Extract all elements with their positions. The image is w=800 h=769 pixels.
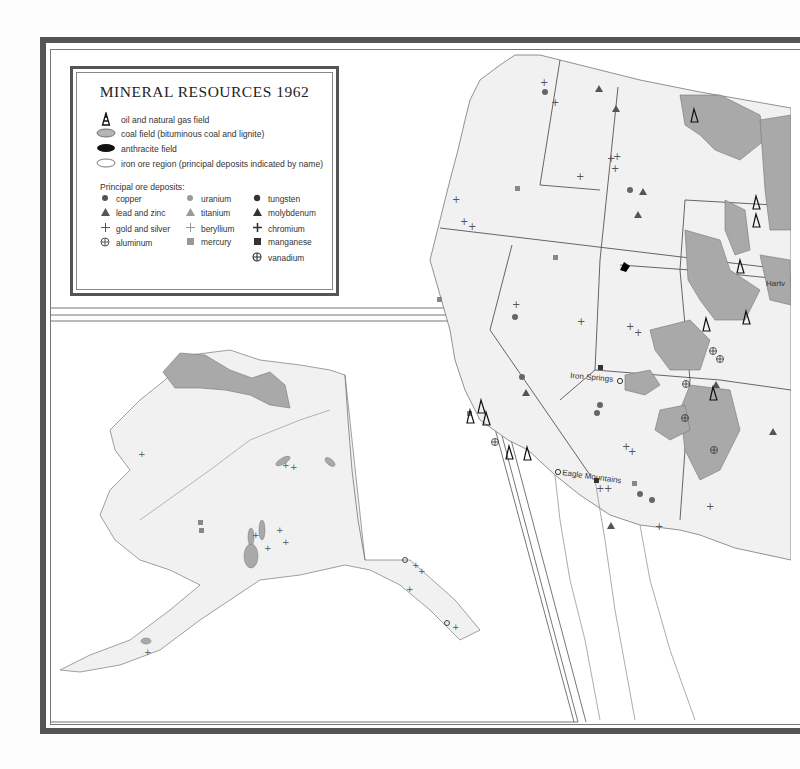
svg-text:+: + bbox=[138, 449, 146, 459]
svg-text:+: + bbox=[418, 566, 426, 576]
svg-text:+: + bbox=[452, 622, 460, 632]
legend-beryllium: beryllium bbox=[185, 223, 235, 234]
legend-titanium: titanium bbox=[185, 208, 230, 218]
legend-tungsten: tungsten bbox=[252, 194, 300, 204]
iron-ore-region-swatch bbox=[95, 158, 117, 170]
legend-label: tungsten bbox=[268, 194, 300, 204]
legend-label: uranium bbox=[201, 194, 231, 204]
black-square-icon bbox=[252, 237, 262, 247]
legend-label: mercury bbox=[201, 237, 231, 247]
dark-triangle-icon bbox=[100, 208, 110, 218]
legend-label: vanadium bbox=[268, 253, 304, 263]
svg-text:+: + bbox=[144, 647, 152, 657]
svg-text:+: + bbox=[282, 460, 290, 470]
legend-label: lead and zinc bbox=[116, 208, 165, 218]
svg-text:+: + bbox=[604, 483, 612, 494]
bold-plus-icon bbox=[252, 223, 262, 234]
svg-text:+: + bbox=[706, 501, 714, 512]
svg-text:+: + bbox=[276, 525, 284, 535]
dark-circle-icon bbox=[100, 194, 110, 204]
light-triangle-icon bbox=[185, 208, 195, 218]
legend-label: copper bbox=[116, 194, 142, 204]
legend-label: anthracite field bbox=[121, 144, 177, 154]
legend-vanadium: vanadium bbox=[252, 252, 304, 264]
svg-text:+: + bbox=[512, 299, 520, 310]
svg-text:+: + bbox=[540, 77, 548, 88]
svg-text:+: + bbox=[655, 521, 663, 532]
svg-text:+: + bbox=[452, 194, 460, 205]
legend-manganese: manganese bbox=[252, 237, 312, 247]
svg-text:+: + bbox=[406, 584, 414, 594]
legend-gold-silver: gold and silver bbox=[100, 223, 170, 234]
label-hartville: Hartv bbox=[766, 279, 785, 288]
svg-text:+: + bbox=[264, 543, 272, 553]
svg-text:+: + bbox=[468, 221, 476, 232]
legend-label: titanium bbox=[201, 208, 230, 218]
ore-deposits-heading: Principal ore deposits: bbox=[100, 182, 185, 192]
legend-copper: copper bbox=[100, 194, 142, 204]
legend-molybdenum: molybdenum bbox=[252, 208, 316, 218]
legend-label: oil and natural gas field bbox=[121, 115, 209, 125]
plus-icon bbox=[100, 223, 110, 234]
circled-plus-icon bbox=[100, 237, 110, 249]
legend-mercury: mercury bbox=[185, 237, 231, 247]
svg-text:+: + bbox=[551, 97, 559, 108]
svg-text:+: + bbox=[577, 316, 585, 327]
legend-anthracite: anthracite field bbox=[95, 143, 177, 155]
legend-chromium: chromium bbox=[252, 223, 305, 234]
legend-label: gold and silver bbox=[116, 224, 170, 234]
svg-text:+: + bbox=[290, 462, 298, 472]
legend-label: beryllium bbox=[201, 224, 235, 234]
svg-text:+: + bbox=[628, 446, 636, 457]
legend-label: iron ore region (principal deposits indi… bbox=[121, 159, 323, 169]
legend-label: manganese bbox=[268, 237, 312, 247]
circled-cross-icon bbox=[252, 252, 262, 264]
svg-text:+: + bbox=[576, 171, 584, 182]
legend-coal: coal field (bituminous coal and lignite) bbox=[95, 128, 264, 140]
light-plus-icon bbox=[185, 223, 195, 234]
light-circle-icon bbox=[185, 194, 195, 204]
coal-field-swatch bbox=[95, 128, 117, 140]
anthracite-field-swatch bbox=[95, 143, 117, 155]
oil-derrick-icon bbox=[95, 112, 117, 128]
svg-text:+: + bbox=[282, 537, 290, 547]
black-triangle-icon bbox=[252, 208, 262, 218]
legend-label: coal field (bituminous coal and lignite) bbox=[121, 129, 264, 139]
light-square-icon bbox=[185, 237, 195, 247]
svg-text:+: + bbox=[252, 530, 260, 540]
legend-label: chromium bbox=[268, 224, 305, 234]
black-circle-icon bbox=[252, 194, 262, 204]
svg-text:+: + bbox=[634, 327, 642, 338]
map-legend: MINERAL RESOURCES 1962 oil and natural g… bbox=[70, 66, 339, 296]
legend-label: aluminum bbox=[116, 238, 152, 248]
legend-lead-zinc: lead and zinc bbox=[100, 208, 165, 218]
legend-aluminum: aluminum bbox=[100, 237, 152, 249]
legend-uranium: uranium bbox=[185, 194, 231, 204]
legend-oil-gas: oil and natural gas field bbox=[95, 112, 209, 128]
svg-text:+: + bbox=[613, 151, 621, 162]
map-title: MINERAL RESOURCES 1962 bbox=[73, 83, 336, 101]
legend-label: molybdenum bbox=[268, 208, 316, 218]
svg-text:+: + bbox=[611, 163, 619, 174]
legend-iron-ore: iron ore region (principal deposits indi… bbox=[95, 158, 323, 170]
alaska-landmass bbox=[60, 350, 480, 672]
